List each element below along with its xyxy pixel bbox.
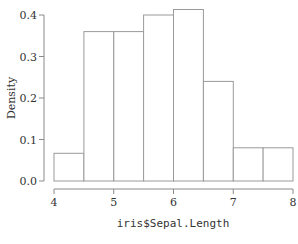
x-tick-label: 6 [170, 196, 177, 209]
x-tick-label: 8 [290, 196, 297, 209]
y-tick-label: 0.2 [20, 92, 38, 105]
x-axis: 45678 [51, 189, 297, 209]
histogram-bar [263, 148, 293, 181]
histogram-bar [114, 32, 144, 181]
y-tick-label: 0.1 [20, 134, 38, 147]
x-tick-label: 4 [51, 196, 58, 209]
histogram-chart: 0.00.10.20.30.4 45678 Density iris$Sepal… [0, 0, 298, 244]
y-tick-label: 0.3 [20, 51, 38, 64]
histogram-bar [203, 81, 233, 181]
histogram-bars [54, 10, 293, 182]
histogram-bar [144, 15, 174, 181]
histogram-bar [233, 148, 263, 181]
y-axis: 0.00.10.20.30.4 [20, 9, 45, 188]
y-axis-label: Density [5, 76, 18, 119]
x-axis-label: iris$Sepal.Length [117, 217, 230, 230]
y-tick-label: 0.0 [20, 175, 38, 188]
histogram-bar [84, 32, 114, 181]
histogram-bar [174, 10, 204, 182]
x-tick-label: 7 [230, 196, 237, 209]
histogram-bar [54, 153, 84, 181]
y-tick-label: 0.4 [20, 9, 38, 22]
x-tick-label: 5 [110, 196, 117, 209]
